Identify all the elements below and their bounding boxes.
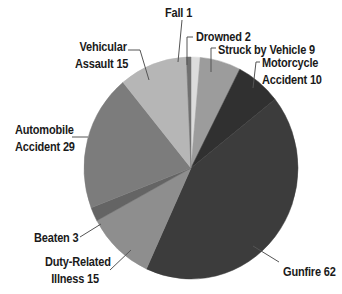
leader-fall [178, 20, 182, 62]
leader-duty [110, 250, 131, 270]
label-vehicular-line2: Assault 15 [75, 56, 128, 73]
label-motorcycle-accident: Motorcycle Accident 10 [262, 55, 322, 89]
leader-beaten [80, 224, 101, 237]
label-automobile-line1: Automobile [15, 122, 75, 139]
pie-slices [84, 57, 298, 279]
label-automobile-line2: Accident 29 [15, 139, 75, 156]
label-vehicular-line1: Vehicular [75, 39, 128, 56]
label-vehicular-assault: Vehicular Assault 15 [75, 39, 128, 73]
label-duty-line1: Duty-Related [45, 254, 111, 271]
label-motorcycle-line1: Motorcycle [262, 55, 322, 72]
label-beaten: Beaten 3 [34, 230, 78, 247]
label-duty-line2: Illness 15 [45, 271, 111, 288]
label-motorcycle-line2: Accident 10 [262, 72, 322, 89]
label-fall: Fall 1 [165, 5, 192, 22]
label-gunfire: Gunfire 62 [283, 264, 336, 281]
label-duty-related-illness: Duty-Related Illness 15 [45, 254, 111, 288]
label-automobile-accident: Automobile Accident 29 [15, 122, 75, 156]
